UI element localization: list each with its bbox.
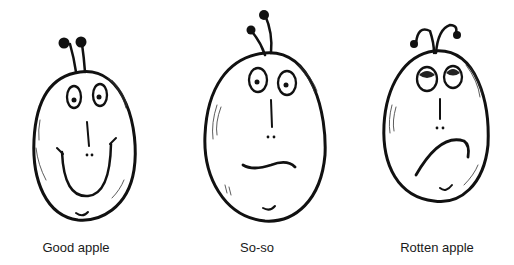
rotten-apple-label: Rotten apple bbox=[400, 240, 474, 255]
rotten-apple-figure bbox=[370, 15, 500, 215]
smiling-face-icon bbox=[30, 30, 160, 225]
good-apple-label: Good apple bbox=[42, 240, 109, 255]
so-so-label: So-so bbox=[240, 240, 274, 255]
good-apple-figure bbox=[30, 30, 160, 225]
neutral-face-icon bbox=[195, 5, 330, 230]
so-so-figure bbox=[195, 5, 330, 230]
frowning-face-icon bbox=[370, 15, 500, 215]
